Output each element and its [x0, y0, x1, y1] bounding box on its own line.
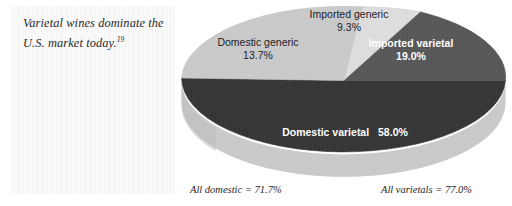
caption-sentence: Varietal wines dominate the U.S. market …: [23, 16, 164, 50]
slice-label-domestic-varietal: Domestic varietal 58.0%: [260, 124, 430, 139]
annotation-all-varietals: All varietals = 77.0%: [381, 184, 472, 195]
slice-label-name: Imported varietal: [352, 37, 470, 50]
caption-paragraph: Varietal wines dominate the U.S. market …: [23, 15, 169, 51]
footnote-marker: 19: [117, 35, 125, 44]
slice-label-name: Domestic varietal: [282, 126, 369, 138]
slice-label-value: 13.7%: [198, 49, 318, 62]
slice-label-imported-generic: Imported generic 9.3%: [294, 8, 404, 34]
annotation-all-domestic: All domestic = 71.7%: [190, 184, 282, 195]
slice-label-imported-varietal: Imported varietal 19.0%: [352, 37, 470, 63]
slice-label-value: 19.0%: [352, 50, 470, 63]
slice-label-value: 9.3%: [294, 21, 404, 34]
figure-root: Varietal wines dominate the U.S. market …: [0, 0, 512, 206]
slice-label-value: 58.0%: [378, 126, 408, 138]
caption-panel: Varietal wines dominate the U.S. market …: [11, 6, 175, 194]
slice-label-domestic-generic: Domestic generic 13.7%: [198, 36, 318, 62]
pie-chart: Domestic generic 13.7% Imported generic …: [176, 0, 512, 206]
slice-label-name: Imported generic: [294, 8, 404, 21]
slice-label-name: Domestic generic: [198, 36, 318, 49]
